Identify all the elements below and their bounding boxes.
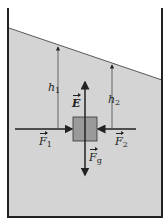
label-e: E [72, 98, 80, 109]
label-h2: h2 [108, 94, 120, 107]
label-h1: h1 [48, 82, 60, 95]
diagram-canvas [0, 0, 166, 219]
label-f1: F1 [39, 136, 52, 149]
label-fg: Fg [89, 152, 102, 165]
label-f2: F2 [115, 136, 128, 149]
